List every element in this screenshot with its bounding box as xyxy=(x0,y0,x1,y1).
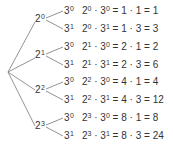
node-3-pow-1: 31 xyxy=(64,130,74,141)
equation-row: 20 · 30 = 1 · 1 = 1 xyxy=(82,5,158,16)
node-3-pow-0: 30 xyxy=(64,41,74,52)
node-3-pow-0: 30 xyxy=(64,112,74,123)
node-2-pow-3: 23 xyxy=(35,120,45,131)
equation-row: 23 · 31 = 8 · 3 = 24 xyxy=(82,130,164,141)
node-3-pow-1: 31 xyxy=(64,94,74,105)
node-3-pow-0: 30 xyxy=(64,76,74,87)
node-2-pow-0: 20 xyxy=(35,13,45,24)
node-3-pow-1: 31 xyxy=(64,59,74,70)
equation-row: 23 · 30 = 8 · 1 = 8 xyxy=(82,112,158,123)
equation-row: 22 · 31 = 4 · 3 = 12 xyxy=(82,94,164,105)
tree-lines xyxy=(0,0,173,146)
node-3-pow-1: 31 xyxy=(64,23,74,34)
equation-row: 21 · 31 = 2 · 3 = 6 xyxy=(82,59,158,70)
node-3-pow-0: 30 xyxy=(64,5,74,16)
equation-row: 22 · 30 = 4 · 1 = 4 xyxy=(82,76,158,87)
node-2-pow-2: 22 xyxy=(35,84,45,95)
node-2-pow-1: 21 xyxy=(35,49,45,60)
equation-row: 20 · 31 = 1 · 3 = 3 xyxy=(82,23,158,34)
equation-row: 21 · 30 = 2 · 1 = 2 xyxy=(82,41,158,52)
